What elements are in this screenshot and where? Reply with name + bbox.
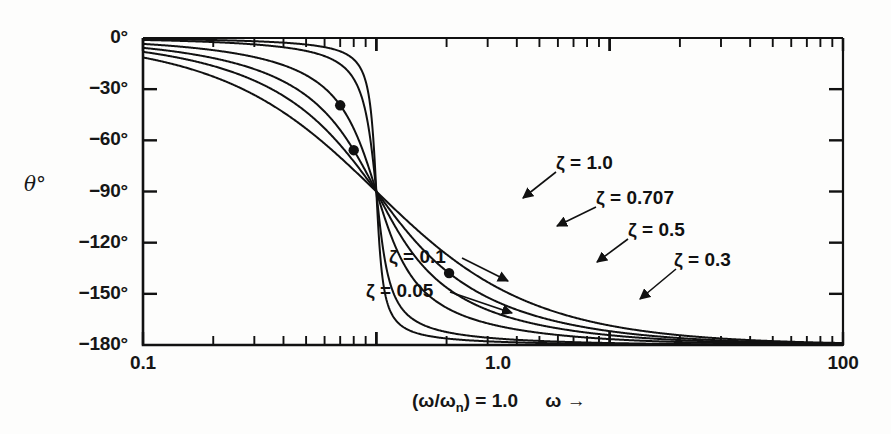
- data-point-marker: [349, 145, 359, 155]
- x-axis-caption: (ω/ωn) = 1.0 ω →: [412, 390, 586, 415]
- y-tick-label-minus120: −120°: [0, 231, 128, 253]
- phase-curves: [143, 39, 843, 345]
- y-tick-label-0: 0°: [0, 26, 128, 48]
- curve-label-zeta-1-0: ζ = 1.0: [556, 152, 613, 174]
- y-axis-title: θ°: [24, 172, 46, 196]
- data-point-marker: [335, 100, 345, 110]
- data-point-marker: [444, 268, 454, 278]
- y-tick-label-minus180: −180°: [0, 333, 128, 355]
- label-leader-arrow: [597, 239, 628, 262]
- x-caption-ratio: (ω/ω: [412, 390, 456, 411]
- y-tick-label-minus30: −30°: [0, 77, 128, 99]
- label-leader-arrow: [640, 269, 676, 299]
- curve-label-zeta-0-05: ζ = 0.05: [366, 280, 433, 302]
- label-leader-arrow: [523, 172, 556, 198]
- y-tick-label-minus90: −90°: [0, 180, 128, 202]
- x-caption-rest: ) = 1.0: [464, 390, 518, 411]
- x-tick-label-100: 100: [813, 352, 873, 374]
- x-caption-subscript: n: [456, 400, 464, 415]
- x-tick-label-1-0: 1.0: [468, 352, 528, 374]
- y-tick-label-minus60: −60°: [0, 128, 128, 150]
- label-leader-arrow: [450, 292, 512, 313]
- x-caption-omega-arrow: ω →: [545, 390, 585, 411]
- curve-label-zeta-0-3: ζ = 0.3: [674, 249, 731, 271]
- x-tick-label-0-1: 0.1: [113, 352, 173, 374]
- curve-label-zeta-0-5: ζ = 0.5: [628, 219, 685, 241]
- phase-curve: [143, 52, 843, 344]
- label-leader-arrow: [557, 207, 596, 226]
- y-tick-label-minus150: −150°: [0, 282, 128, 304]
- curve-label-zeta-0-707: ζ = 0.707: [596, 187, 674, 209]
- curve-label-zeta-0-1: ζ = 0.1: [389, 246, 446, 268]
- figure-root: 0° −30° −60° −90° −120° −150° −180° θ° 0…: [0, 0, 891, 434]
